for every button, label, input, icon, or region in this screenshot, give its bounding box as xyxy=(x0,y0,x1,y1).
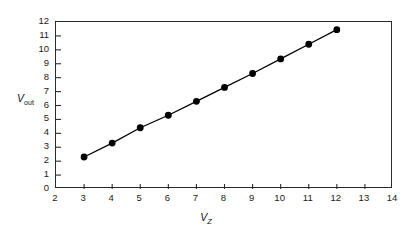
x-axis-title-subscript: Z xyxy=(207,217,212,226)
data-point xyxy=(305,41,312,48)
y-axis-tick-label: 6 xyxy=(21,100,49,110)
x-axis-tick-label: 10 xyxy=(274,193,285,203)
plot-svg xyxy=(56,22,393,189)
plot-area xyxy=(55,21,392,188)
data-point xyxy=(165,112,172,119)
x-axis-tick-label: 5 xyxy=(137,193,142,203)
y-axis-tick-label: 0 xyxy=(21,183,49,193)
x-axis-tick-label: 7 xyxy=(193,193,198,203)
y-axis-tick-label: 4 xyxy=(21,128,49,138)
y-axis-tick-label: 1 xyxy=(21,169,49,179)
y-axis-tick-label: 8 xyxy=(21,72,49,82)
x-axis-tick-label: 3 xyxy=(80,193,85,203)
data-point xyxy=(277,55,284,62)
chart-figure: Vout VZ 0123456789101112 234567891011121… xyxy=(0,0,413,241)
x-axis-tick-label: 13 xyxy=(359,193,370,203)
axis-ticks xyxy=(56,36,365,189)
x-axis-tick-label: 9 xyxy=(249,193,254,203)
x-axis-tick-label: 8 xyxy=(221,193,226,203)
data-point xyxy=(193,98,200,105)
y-axis-tick-label: 11 xyxy=(21,30,49,40)
y-axis-tick-label: 9 xyxy=(21,58,49,68)
y-axis-tick-label: 12 xyxy=(21,16,49,26)
data-point xyxy=(109,140,116,147)
x-axis-tick-label: 12 xyxy=(331,193,342,203)
data-point xyxy=(137,124,144,131)
data-line xyxy=(84,30,337,157)
y-axis-tick-label: 3 xyxy=(21,142,49,152)
data-point xyxy=(333,26,340,33)
y-axis-tick-label: 10 xyxy=(21,44,49,54)
x-axis-tick-label: 11 xyxy=(303,193,313,203)
data-point xyxy=(81,154,88,161)
x-axis-title-base: V xyxy=(200,211,207,223)
data-point xyxy=(249,70,256,77)
x-axis-tick-label: 2 xyxy=(52,193,57,203)
x-axis-tick-label: 6 xyxy=(165,193,170,203)
data-markers xyxy=(81,26,341,160)
y-axis-tick-label: 5 xyxy=(21,114,49,124)
y-axis-tick-label: 7 xyxy=(21,86,49,96)
data-point xyxy=(221,84,228,91)
y-axis-tick-label: 2 xyxy=(21,155,49,165)
x-axis-title: VZ xyxy=(200,211,212,223)
x-axis-tick-label: 14 xyxy=(387,193,398,203)
x-axis-tick-label: 4 xyxy=(109,193,114,203)
